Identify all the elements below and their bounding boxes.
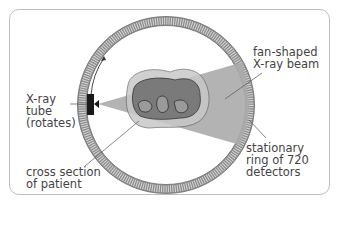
label-xray-tube: X-ray tube (rotates) [26,93,76,129]
label-detector-ring: stationary ring of 720 detectors [246,142,309,178]
label-fan-beam: fan-shaped X-ray beam [253,46,319,70]
label-patient: cross section of patient [26,166,101,190]
patient-cross-section [126,69,209,128]
xray-tube-icon [87,94,94,115]
